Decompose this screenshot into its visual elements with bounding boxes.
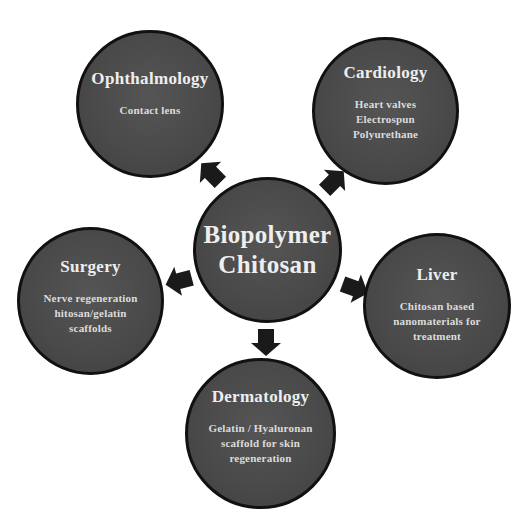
- node-center-biopolymer-chitosan: Biopolymer Chitosan: [193, 177, 342, 323]
- node-title: Cardiology: [343, 63, 427, 83]
- desc-line: nanomaterials for: [393, 314, 480, 329]
- node-liver: Liver Chitosan based nanomaterials for t…: [363, 233, 511, 379]
- center-title-line1: Biopolymer: [204, 220, 332, 250]
- node-ophthalmology: Ophthalmology Contact lens: [76, 30, 224, 178]
- desc-line: scaffold for skin: [208, 436, 312, 451]
- node-description: Chitosan based nanomaterials for treatme…: [393, 299, 480, 344]
- desc-line: hitosan/gelatin: [43, 306, 137, 321]
- node-description: Nerve regeneration hitosan/gelatin scaff…: [43, 291, 137, 336]
- arrow-to-surgery-icon: [162, 263, 196, 299]
- arrow-to-dermatology-icon: [251, 329, 281, 356]
- desc-line: Electrospun: [353, 112, 418, 127]
- desc-line: Polyurethane: [353, 127, 418, 142]
- node-description: Contact lens: [120, 103, 181, 118]
- node-cardiology: Cardiology Heart valves Electrospun Poly…: [312, 37, 459, 185]
- desc-line: Contact lens: [120, 103, 181, 118]
- desc-line: scaffolds: [43, 321, 137, 336]
- desc-line: Gelatin / Hyaluronan: [208, 421, 312, 436]
- desc-line: regeneration: [208, 451, 312, 466]
- node-surgery: Surgery Nerve regeneration hitosan/gelat…: [17, 227, 164, 375]
- node-description: Heart valves Electrospun Polyurethane: [353, 97, 418, 142]
- node-title: Liver: [416, 265, 457, 285]
- node-title: Dermatology: [212, 387, 310, 407]
- desc-line: Chitosan based: [393, 299, 480, 314]
- center-title-line2: Chitosan: [218, 250, 316, 280]
- chitosan-applications-diagram: Ophthalmology Contact lens Cardiology He…: [0, 0, 532, 525]
- node-dermatology: Dermatology Gelatin / Hyaluronan scaffol…: [185, 358, 336, 509]
- node-description: Gelatin / Hyaluronan scaffold for skin r…: [208, 421, 312, 466]
- desc-line: Nerve regeneration: [43, 291, 137, 306]
- desc-line: treatment: [393, 329, 480, 344]
- node-title: Ophthalmology: [91, 69, 208, 89]
- desc-line: Heart valves: [353, 97, 418, 112]
- node-title: Surgery: [60, 257, 121, 277]
